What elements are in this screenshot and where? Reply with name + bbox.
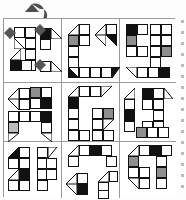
- cell: [161, 35, 172, 46]
- cell: [139, 145, 150, 156]
- cell: [8, 158, 19, 169]
- cell: [19, 88, 30, 99]
- cell: [128, 156, 139, 167]
- triangle-cell: [128, 178, 139, 189]
- cell: [124, 99, 135, 110]
- cell: [41, 111, 52, 122]
- triangle-cell: [124, 88, 135, 99]
- cell: [46, 169, 57, 180]
- cell: [10, 60, 21, 71]
- triangle-cell: [106, 35, 117, 46]
- triangle-cell: [14, 38, 25, 49]
- cell: [158, 127, 169, 138]
- cell: [159, 67, 170, 78]
- cell: [79, 130, 90, 141]
- cell: [150, 35, 161, 46]
- cell: [147, 127, 158, 138]
- cell: [19, 147, 30, 158]
- cell: [79, 145, 90, 156]
- cell: [30, 87, 41, 98]
- triangle-cell: [101, 86, 112, 97]
- triangle-cell: [48, 147, 57, 158]
- panel-2[interactable]: [62, 19, 120, 83]
- puzzle-panel-grid: [3, 18, 175, 197]
- cell: [128, 167, 139, 178]
- cell: [68, 35, 79, 46]
- cell: [101, 145, 112, 156]
- triangle-cell: [51, 61, 62, 72]
- cell: [37, 147, 48, 158]
- triangle-cell: [66, 173, 77, 184]
- cell: [126, 24, 137, 35]
- cell: [153, 88, 164, 99]
- cell: [161, 145, 172, 156]
- panel-8[interactable]: [62, 142, 120, 198]
- cell: [90, 86, 101, 97]
- cell: [136, 127, 147, 138]
- cell: [161, 24, 172, 35]
- cell: [92, 119, 103, 130]
- arrow-marker-left: [4, 27, 16, 39]
- cell: [8, 122, 19, 133]
- cell: [19, 99, 30, 110]
- triangle-cell: [164, 88, 173, 99]
- cell: [142, 88, 153, 99]
- triangle-cell: [68, 86, 79, 97]
- cell: [137, 24, 148, 35]
- cell: [37, 180, 48, 191]
- cell: [109, 171, 118, 182]
- triangle-cell: [51, 28, 62, 39]
- triangle-cell: [68, 145, 79, 156]
- cell: [124, 110, 135, 121]
- triangle-cell: [126, 67, 137, 78]
- figure-canvas: [0, 0, 186, 200]
- cell: [153, 110, 164, 121]
- cell: [106, 156, 117, 167]
- cell: [156, 156, 167, 167]
- page-margin-dashes: [181, 20, 184, 196]
- triangle-cell: [41, 133, 52, 142]
- cell: [137, 67, 148, 78]
- cell: [139, 178, 150, 189]
- cell: [19, 180, 30, 191]
- cell: [79, 86, 90, 97]
- cell: [21, 60, 32, 71]
- panel-5[interactable]: [62, 83, 120, 142]
- triangle-cell: [95, 24, 106, 35]
- triangle-cell: [8, 169, 19, 180]
- cell: [25, 38, 36, 49]
- cell: [148, 67, 159, 78]
- cell: [68, 119, 79, 130]
- arrow-marker-bottom-right: [34, 59, 46, 71]
- cell: [90, 67, 101, 78]
- cell: [156, 178, 167, 189]
- panel-7[interactable]: [4, 142, 62, 198]
- triangle-cell: [10, 49, 21, 60]
- cell: [142, 99, 153, 110]
- panel-6[interactable]: [120, 83, 176, 142]
- cell: [156, 167, 167, 178]
- cell: [92, 130, 103, 141]
- panel-4[interactable]: [4, 83, 62, 142]
- cell: [8, 111, 19, 122]
- cell: [68, 156, 79, 167]
- cell: [19, 158, 30, 169]
- cell: [68, 97, 79, 108]
- cell: [150, 46, 161, 57]
- cell: [79, 67, 90, 78]
- triangle-cell: [8, 88, 19, 99]
- cell: [77, 173, 88, 184]
- cell: [40, 39, 51, 50]
- triangle-cell: [95, 35, 106, 46]
- panel-1[interactable]: [4, 19, 62, 83]
- cell: [126, 46, 137, 57]
- triangle-cell: [66, 184, 77, 195]
- cell: [103, 130, 114, 141]
- triangle-cell: [98, 171, 109, 182]
- cell: [161, 46, 172, 57]
- cell: [30, 111, 41, 122]
- cell: [68, 130, 79, 141]
- panel-3[interactable]: [120, 19, 176, 83]
- cell: [139, 167, 150, 178]
- panel-9[interactable]: [120, 142, 176, 198]
